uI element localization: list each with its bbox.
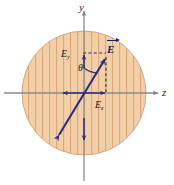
- y-axis-label: y: [79, 2, 84, 13]
- Ey-component-label: Ey: [61, 49, 70, 60]
- Ez-label-subscript: z: [101, 104, 103, 111]
- E-vector-label: E: [107, 44, 114, 55]
- figure-canvas: y z E Ey Ez θ: [0, 0, 174, 185]
- E-vector-label-text: E: [107, 43, 114, 55]
- vector-overarrow-tip: [116, 38, 120, 42]
- Ez-component-label: Ez: [95, 100, 104, 111]
- Ey-label-subscript: y: [67, 53, 70, 60]
- theta-angle-label: θ: [78, 63, 83, 73]
- z-axis-label: z: [162, 87, 166, 98]
- vector-diagram-svg: [0, 0, 174, 185]
